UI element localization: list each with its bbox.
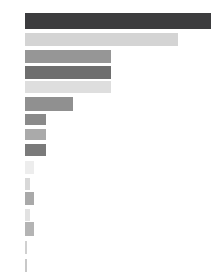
bar-14 bbox=[25, 222, 34, 236]
bar-4 bbox=[25, 66, 111, 79]
bar-1 bbox=[25, 13, 211, 29]
bar-11 bbox=[25, 178, 30, 190]
bar-13 bbox=[25, 209, 30, 221]
bar-8 bbox=[25, 129, 46, 140]
bar-12 bbox=[25, 192, 34, 205]
bar-5 bbox=[25, 81, 111, 93]
bar-16 bbox=[25, 259, 27, 272]
bar-chart bbox=[0, 0, 222, 275]
bar-6 bbox=[25, 97, 73, 111]
bar-9 bbox=[25, 144, 46, 156]
bar-7 bbox=[25, 114, 46, 125]
bar-10 bbox=[25, 161, 34, 174]
bar-15 bbox=[25, 241, 27, 254]
plot-area bbox=[0, 0, 222, 275]
bar-3 bbox=[25, 50, 111, 63]
bar-2 bbox=[25, 33, 178, 46]
